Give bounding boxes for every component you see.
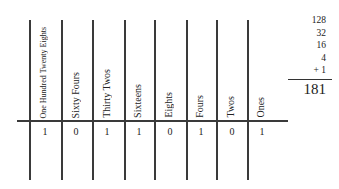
addition-summary: 128 32 16 4 + 1 181 [296,14,326,98]
column-label-64s: Sixty Fours [69,8,83,118]
addend: 4 [296,52,326,65]
binary-digit: 1 [191,126,211,137]
addend: 16 [296,39,326,52]
column-label-32s: Thirty Twos [100,8,114,118]
binary-digit: 1 [129,126,149,137]
column-divider-line [29,20,31,180]
column-label-16s: Sixteens [131,8,145,118]
sum-line [288,79,332,81]
column-divider-line [154,20,156,180]
column-divider-line [92,20,94,180]
column-divider-line [247,20,249,180]
column-divider-line [124,20,126,180]
binary-digit: 1 [252,126,272,137]
column-divider-line [186,20,188,180]
binary-digit: 0 [222,126,242,137]
column-label-8s: Eights [162,8,176,118]
addend: 32 [296,27,326,40]
column-label-1s: Ones [254,8,268,118]
binary-digit: 0 [160,126,180,137]
binary-digit: 1 [35,126,55,137]
column-label-4s: Fours [193,8,207,118]
binary-digit: 1 [97,126,117,137]
column-divider-line [61,20,63,180]
addend: 128 [296,14,326,27]
column-label-2s: Twos [224,8,238,118]
addend: + 1 [296,64,326,77]
binary-digit: 0 [66,126,86,137]
sum-total: 181 [296,81,326,98]
column-label-128s: One Hundred Twenty Eights [37,8,51,118]
column-divider-line [216,20,218,180]
